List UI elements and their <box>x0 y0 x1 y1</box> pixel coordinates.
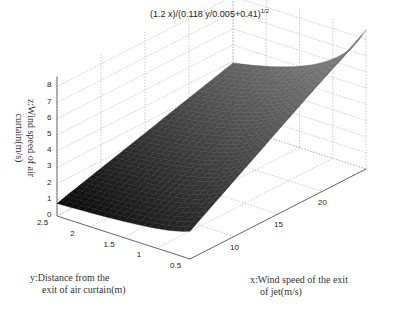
y-axis-label: y:Distance from the exit of air curtain(… <box>30 272 126 296</box>
z-tick: 8 <box>47 80 51 89</box>
z-tick: 3 <box>47 161 51 170</box>
y-tick: 1 <box>137 250 141 259</box>
z-tick: 5 <box>47 129 51 138</box>
z-tick: 7 <box>47 97 51 106</box>
z-tick: 6 <box>47 113 51 122</box>
y-tick: 0.5 <box>170 261 181 270</box>
z-tick: 1 <box>47 194 51 203</box>
z-tick: 2 <box>47 178 51 187</box>
y-tick: 2 <box>70 229 74 238</box>
y-tick: 2.5 <box>37 218 48 227</box>
x-tick: 15 <box>274 220 283 229</box>
surface-plot <box>0 0 396 312</box>
chart-title: (1.2 x)/(0.118 y/0.005+0.41)1/2 <box>150 8 269 19</box>
z-tick: 4 <box>47 145 51 154</box>
x-tick: 10 <box>230 243 239 252</box>
x-tick: 20 <box>318 198 327 207</box>
y-tick: 1.5 <box>104 240 115 249</box>
x-axis-label: x:Wind speed of the exit of jet(m/s) <box>250 274 348 298</box>
z-axis-label: z:Wind speed of air curtain(m/s) <box>13 83 37 193</box>
